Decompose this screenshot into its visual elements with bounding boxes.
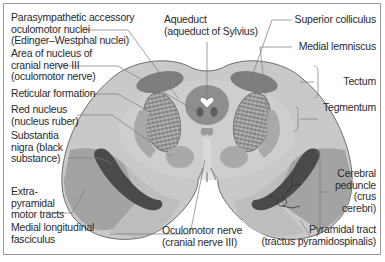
label-tectum: Tectum — [343, 76, 376, 88]
label-medial-lemniscus: Medial lemniscus — [299, 41, 376, 53]
label-edinger-westphal: Parasympathetic accessory oculomotor nuc… — [11, 12, 134, 47]
red-nucleus-right — [220, 146, 248, 168]
label-aqueduct: Aqueduct (aqueduct of Sylvius) — [164, 14, 258, 37]
label-red-nucleus: Red nucleus (nucleus ruber) — [11, 104, 79, 127]
label-mlf: Medial longitudinal fasciculus — [11, 222, 94, 245]
label-cn3-nucleus: Area of nucleus of cranial nerve III (oc… — [11, 48, 96, 83]
label-substantia-nigra: Substantia nigra (black substance) — [11, 130, 63, 165]
label-tegmentum: Tegmentum — [323, 102, 376, 114]
label-superior-colliculus: Superior colliculus — [295, 14, 376, 26]
red-nucleus-left — [166, 146, 194, 168]
label-reticular-formation: Reticular formation — [11, 88, 95, 100]
label-cerebral-peduncle: Cerebral peduncle (crus cerebri) — [335, 168, 376, 214]
label-extrapyramidal: Extra- pyramidal motor tracts — [11, 186, 64, 221]
label-oculomotor-nerve: Oculomotor nerve (cranial nerve III) — [162, 225, 242, 248]
label-pyramidal-tract: Pyramidal tract (tractus pyramidospinali… — [262, 224, 376, 247]
